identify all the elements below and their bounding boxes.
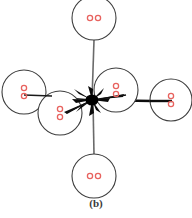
figure-container: (b): [0, 0, 192, 218]
diagram-canvas: [0, 0, 192, 218]
node-top-circle: [72, 0, 116, 40]
node-right-inner-circle: [94, 68, 138, 112]
node-bottom-circle: [72, 154, 116, 198]
figure-caption: (b): [0, 197, 192, 210]
junction-core: [86, 95, 99, 106]
node-left-inner-circle: [38, 91, 82, 135]
connector-left-outer-stub: [24, 95, 52, 96]
